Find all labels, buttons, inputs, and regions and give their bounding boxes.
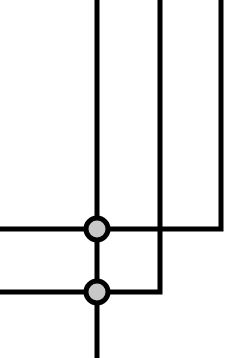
junction-lower-node [86, 281, 108, 303]
wire-upper-line [0, 0, 221, 229]
junction-upper-node [86, 218, 108, 240]
wiring-diagram [0, 0, 246, 358]
wire-lower-line [0, 0, 160, 292]
wires-group [0, 0, 221, 358]
